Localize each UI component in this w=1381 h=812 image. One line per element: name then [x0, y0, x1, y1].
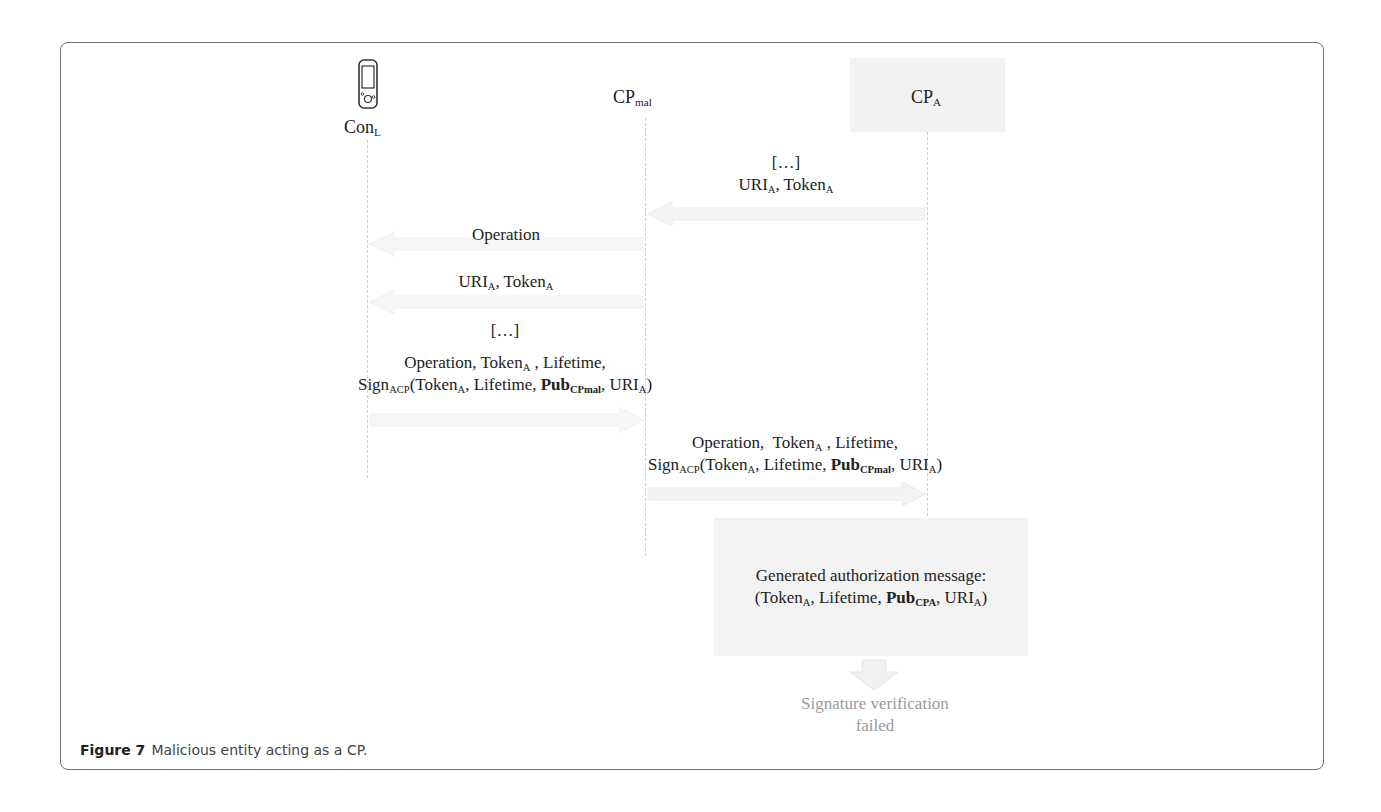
- message-4-line2: SignACP(TokenA, Lifetime, PubCPmal, URIA…: [300, 374, 710, 396]
- verification-result-line2: failed: [730, 715, 1020, 737]
- arrow-down-verification: [850, 660, 898, 690]
- figure-caption-label: Figure 7: [80, 742, 145, 758]
- participant-con-l: ConL: [344, 116, 381, 138]
- message-2-operation: Operation: [472, 225, 540, 244]
- generated-message-label: Generated authorization message: (TokenA…: [714, 565, 1028, 609]
- participant-cp-a-base: CP: [911, 87, 933, 107]
- mobile-phone-icon: [357, 58, 379, 110]
- message-4-label: […] Operation, TokenA , Lifetime, SignAC…: [300, 320, 710, 396]
- message-1-ellipsis: […]: [650, 152, 922, 174]
- arrow-conl-to-cpmal: [370, 408, 644, 432]
- message-1-payload: URIA, TokenA: [650, 174, 922, 196]
- message-5-label: Operation, TokenA , Lifetime, SignACP(To…: [590, 432, 1000, 476]
- arrow-cpmal-to-cpa: [648, 482, 926, 506]
- participant-con-l-sub: L: [374, 126, 381, 138]
- arrow-cpmal-to-conl-uri: [370, 290, 643, 314]
- generated-message-title: Generated authorization message:: [714, 565, 1028, 587]
- participant-cp-a: CPA: [911, 86, 941, 108]
- participant-con-l-base: Con: [344, 117, 374, 137]
- figure-caption: Figure 7Malicious entity acting as a CP.: [80, 742, 367, 758]
- participant-cp-mal: CPmal: [613, 86, 652, 108]
- message-arrows: [0, 0, 1381, 812]
- message-3-label: URIA, TokenA: [370, 271, 642, 293]
- verification-result-line1: Signature verification: [730, 693, 1020, 715]
- participant-cp-mal-base: CP: [613, 87, 635, 107]
- verification-result: Signature verification failed: [730, 693, 1020, 737]
- figure-caption-text: Malicious entity acting as a CP.: [151, 742, 367, 758]
- message-4-line1: Operation, TokenA , Lifetime,: [300, 352, 710, 374]
- participant-cp-a-sub: A: [933, 96, 941, 108]
- message-2-label: Operation: [370, 224, 642, 246]
- participant-cp-mal-sub: mal: [635, 96, 652, 108]
- message-1-label: […] URIA, TokenA: [650, 152, 922, 196]
- message-5-line1: Operation, TokenA , Lifetime,: [590, 432, 1000, 454]
- generated-message-content: (TokenA, Lifetime, PubCPA, URIA): [714, 587, 1028, 609]
- arrow-cpa-to-cpmal: [648, 202, 925, 226]
- message-5-line2: SignACP(TokenA, Lifetime, PubCPmal, URIA…: [590, 454, 1000, 476]
- message-4-ellipsis: […]: [300, 320, 710, 342]
